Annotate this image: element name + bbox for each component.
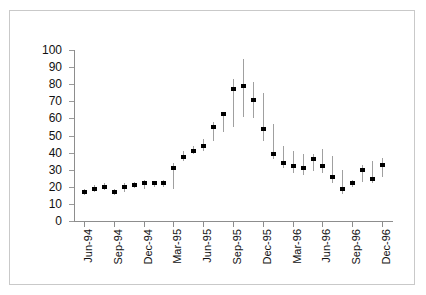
y-axis-label: 10 xyxy=(30,198,62,210)
y-axis-label: 50 xyxy=(30,130,62,142)
close-marker xyxy=(171,166,176,170)
close-marker xyxy=(360,168,365,172)
x-axis-tick xyxy=(144,221,145,227)
y-axis-label: 100 xyxy=(30,44,62,56)
y-axis-label: 30 xyxy=(30,164,62,176)
x-axis-tick xyxy=(263,221,264,227)
close-marker xyxy=(291,164,296,168)
x-axis-tick xyxy=(233,221,234,227)
close-marker xyxy=(231,87,236,91)
close-marker xyxy=(161,181,166,185)
y-axis-tick xyxy=(69,221,74,222)
close-marker xyxy=(181,155,186,159)
y-axis-tick xyxy=(69,67,74,68)
close-marker xyxy=(122,185,127,189)
y-axis-tick xyxy=(69,50,74,51)
x-axis-tick xyxy=(352,221,353,227)
x-axis-label: Jun-95 xyxy=(202,229,213,263)
close-marker xyxy=(380,163,385,167)
x-axis-label: Dec-95 xyxy=(261,229,272,264)
y-axis-tick xyxy=(69,187,74,188)
close-marker xyxy=(191,149,196,153)
close-marker xyxy=(350,181,355,185)
y-axis-label: 90 xyxy=(30,61,62,73)
close-marker xyxy=(152,181,157,185)
y-axis-label: 40 xyxy=(30,147,62,159)
x-axis-tick xyxy=(203,221,204,227)
close-marker xyxy=(251,98,256,102)
y-axis-label: 80 xyxy=(30,78,62,90)
close-marker xyxy=(241,84,246,88)
chart-page: 0102030405060708090100 Jun-94Sep-94Dec-9… xyxy=(0,0,426,295)
x-axis-tick xyxy=(84,221,85,227)
x-axis-label: Dec-96 xyxy=(381,229,392,264)
close-marker xyxy=(311,157,316,161)
y-axis-line xyxy=(74,50,75,222)
close-marker xyxy=(301,166,306,170)
x-axis-tick xyxy=(322,221,323,227)
y-axis-tick xyxy=(69,170,74,171)
x-axis-label: Sep-94 xyxy=(112,229,123,264)
close-marker xyxy=(82,190,87,194)
x-axis-label: Jun-96 xyxy=(321,229,332,263)
close-marker xyxy=(102,185,107,189)
close-marker xyxy=(112,190,117,194)
close-marker xyxy=(92,187,97,191)
close-marker xyxy=(142,181,147,185)
close-marker xyxy=(330,175,335,179)
y-axis-tick xyxy=(69,84,74,85)
close-marker xyxy=(271,152,276,156)
close-marker xyxy=(261,127,266,131)
x-axis-tick xyxy=(114,221,115,227)
high-low-bar xyxy=(293,151,294,173)
y-axis-tick xyxy=(69,204,74,205)
y-axis-label: 0 xyxy=(30,215,62,227)
x-axis-tick xyxy=(293,221,294,227)
close-marker xyxy=(340,187,345,191)
high-low-bar xyxy=(233,79,234,127)
high-low-bar xyxy=(263,93,264,141)
x-axis-label: Sep-95 xyxy=(232,229,243,264)
close-marker xyxy=(281,161,286,165)
y-axis-label: 70 xyxy=(30,95,62,107)
y-axis-tick xyxy=(69,118,74,119)
close-marker xyxy=(201,144,206,148)
x-axis-label: Mar-95 xyxy=(172,229,183,264)
chart-frame: 0102030405060708090100 Jun-94Sep-94Dec-9… xyxy=(9,10,415,285)
y-axis-label: 20 xyxy=(30,181,62,193)
close-marker xyxy=(320,164,325,168)
x-axis-label: Mar-96 xyxy=(291,229,302,264)
x-axis-label: Sep-96 xyxy=(351,229,362,264)
y-axis-tick xyxy=(69,136,74,137)
high-low-bar xyxy=(322,149,323,173)
y-axis-tick xyxy=(69,153,74,154)
x-axis-tick xyxy=(173,221,174,227)
x-axis-label: Jun-94 xyxy=(82,229,93,263)
high-low-bar xyxy=(303,154,304,175)
y-axis-label: 60 xyxy=(30,112,62,124)
close-marker xyxy=(370,177,375,181)
x-axis-label: Dec-94 xyxy=(142,229,153,264)
close-marker xyxy=(221,112,226,116)
x-axis-tick xyxy=(382,221,383,227)
close-marker xyxy=(132,183,137,187)
high-low-bar xyxy=(382,158,383,177)
close-marker xyxy=(211,125,216,129)
y-axis-tick xyxy=(69,101,74,102)
